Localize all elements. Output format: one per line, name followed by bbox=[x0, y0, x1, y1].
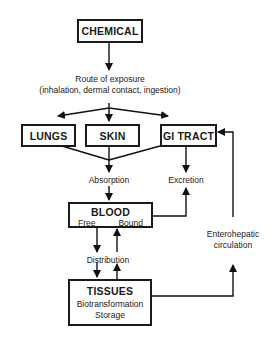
node-skin: SKIN bbox=[85, 124, 140, 147]
node-chemical-title: CHEMICAL bbox=[81, 25, 138, 37]
node-skin-title: SKIN bbox=[100, 130, 126, 142]
node-lungs: LUNGS bbox=[21, 124, 76, 147]
label-distribution: Distribution bbox=[80, 255, 136, 266]
node-gi-tract-title: GI TRACT bbox=[163, 130, 214, 142]
enterohepatic-line1: Enterohepatic bbox=[200, 229, 266, 240]
node-lungs-title: LUNGS bbox=[30, 130, 68, 142]
label-absorption: Absorption bbox=[84, 175, 134, 186]
node-tissues-title: TISSUES bbox=[87, 285, 133, 297]
blood-equilibrium: Free Bound bbox=[70, 218, 151, 229]
node-blood: BLOOD Free Bound bbox=[68, 202, 153, 228]
arrow-enterohepatic-gi bbox=[218, 132, 233, 217]
enterohepatic-line2: circulation bbox=[200, 240, 266, 251]
route-line1: Route of exposure bbox=[20, 74, 200, 85]
node-blood-title: BLOOD bbox=[91, 206, 130, 218]
tissues-line1: Biotransformation bbox=[77, 299, 144, 310]
label-excretion: Excretion bbox=[164, 175, 208, 186]
arrow-blood-excretion bbox=[152, 188, 186, 216]
arrow-to-gi bbox=[109, 108, 168, 116]
arrow-tissues-enterohepatic bbox=[151, 265, 233, 296]
node-gi-tract: GI TRACT bbox=[160, 124, 217, 147]
label-route-of-exposure: Route of exposure (inhalation, dermal co… bbox=[20, 74, 200, 96]
node-chemical: CHEMICAL bbox=[77, 19, 143, 43]
tissues-line2: Storage bbox=[95, 310, 125, 321]
blood-bound-label: Bound bbox=[118, 218, 143, 229]
route-line2: (inhalation, dermal contact, ingestion) bbox=[20, 85, 200, 96]
blood-free-label: Free bbox=[78, 218, 95, 229]
arrow-to-lungs bbox=[58, 108, 109, 116]
label-enterohepatic-circulation: Enterohepatic circulation bbox=[200, 229, 266, 251]
node-tissues: TISSUES Biotransformation Storage bbox=[68, 279, 152, 326]
